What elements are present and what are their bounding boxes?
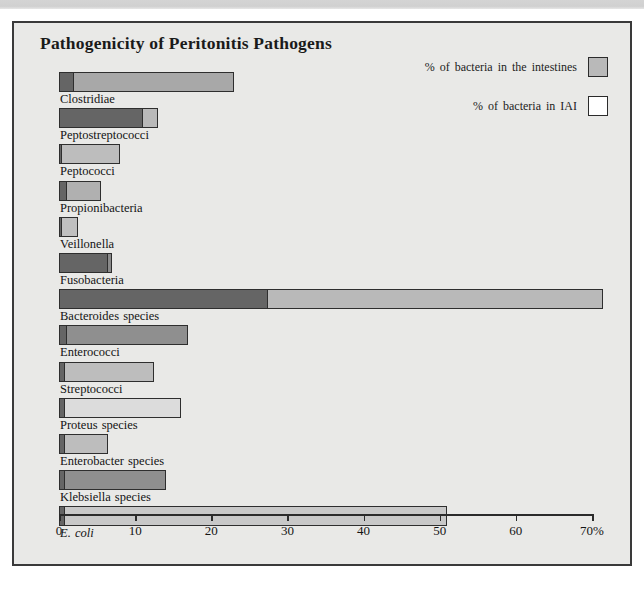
bar-segment-intestines	[59, 362, 154, 382]
axis-tick	[516, 514, 518, 521]
chart-title: Pathogenicity of Peritonitis Pathogens	[40, 33, 332, 54]
bar-group: Propionibacteria	[14, 179, 630, 215]
bar-segment-iai	[59, 325, 67, 345]
bar-segment-iai	[59, 217, 62, 237]
axis-tick-label: 70%	[580, 523, 604, 539]
bar-track	[59, 144, 120, 164]
bar-track	[59, 181, 101, 201]
axis-tick-label: 50	[433, 523, 446, 539]
bar-segment-iai	[59, 253, 108, 273]
bar-track	[59, 470, 166, 490]
bar-category-label: Proteus species	[60, 418, 138, 433]
bars-layer: ClostridiaePeptostreptococciPeptococciPr…	[14, 70, 630, 540]
bar-segment-iai	[59, 72, 74, 92]
axis-tick-label: 40	[357, 523, 370, 539]
bar-track	[59, 398, 181, 418]
axis-tick-label: 60	[509, 523, 522, 539]
bar-group: Enterobacter species	[14, 432, 630, 468]
bar-track	[59, 217, 78, 237]
bar-category-label: Clostridiae	[60, 92, 115, 107]
bar-group: Clostridiae	[14, 70, 630, 106]
bar-segment-intestines	[59, 325, 188, 345]
bar-segment-intestines	[59, 144, 120, 164]
axis-tick	[211, 514, 213, 521]
chart-figure: Pathogenicity of Peritonitis Pathogens %…	[12, 21, 632, 566]
x-axis: 010203040506070%	[14, 506, 630, 550]
bar-segment-iai	[59, 434, 65, 454]
axis-tick-label: 30	[281, 523, 294, 539]
axis-tick	[287, 514, 289, 521]
axis-tick-label: 10	[129, 523, 142, 539]
axis-tick-label: 20	[205, 523, 218, 539]
bar-group: Veillonella	[14, 215, 630, 251]
bar-group: Peptococci	[14, 142, 630, 178]
bar-segment-iai	[59, 108, 143, 128]
bar-segment-intestines	[59, 72, 234, 92]
axis-tick	[440, 514, 442, 521]
bar-category-label: Veillonella	[60, 237, 114, 252]
bar-segment-iai	[59, 144, 62, 164]
bar-category-label: Klebsiella species	[60, 490, 151, 505]
bar-segment-intestines	[59, 470, 166, 490]
bar-group: Streptococci	[14, 360, 630, 396]
bar-track	[59, 434, 108, 454]
axis-tick-label: 0	[56, 523, 63, 539]
bar-track	[59, 72, 234, 92]
bar-segment-intestines	[59, 398, 181, 418]
bar-category-label: Enterobacter species	[60, 454, 164, 469]
axis-tick	[59, 514, 61, 521]
bar-segment-iai	[59, 470, 65, 490]
axis-tick	[364, 514, 366, 521]
bar-segment-iai	[59, 362, 65, 382]
bar-segment-iai	[59, 181, 67, 201]
axis-tick	[135, 514, 137, 521]
bar-group: Klebsiella species	[14, 468, 630, 504]
bar-track	[59, 253, 112, 273]
bar-segment-iai	[59, 289, 268, 309]
bar-segment-iai	[59, 398, 65, 418]
bar-category-label: Enterococci	[60, 345, 120, 360]
bar-group: Proteus species	[14, 396, 630, 432]
bar-category-label: Propionibacteria	[60, 201, 143, 216]
bar-track	[59, 289, 603, 309]
bar-track	[59, 108, 158, 128]
bar-group: Bacteroides species	[14, 287, 630, 323]
bar-group: Peptostreptococci	[14, 106, 630, 142]
scan-artifact-strip	[0, 0, 644, 9]
bar-category-label: Fusobacteria	[60, 273, 124, 288]
plot-area: Pathogenicity of Peritonitis Pathogens %…	[14, 23, 630, 564]
bar-segment-intestines	[59, 434, 108, 454]
bar-group: Enterococci	[14, 323, 630, 359]
axis-tick	[592, 514, 594, 521]
bar-category-label: Peptostreptococci	[60, 128, 149, 143]
bar-category-label: Peptococci	[60, 164, 115, 179]
bar-track	[59, 325, 188, 345]
bar-track	[59, 362, 154, 382]
bar-group: Fusobacteria	[14, 251, 630, 287]
bar-category-label: Streptococci	[60, 382, 122, 397]
bar-category-label: Bacteroides species	[60, 309, 159, 324]
x-axis-line	[59, 514, 594, 516]
